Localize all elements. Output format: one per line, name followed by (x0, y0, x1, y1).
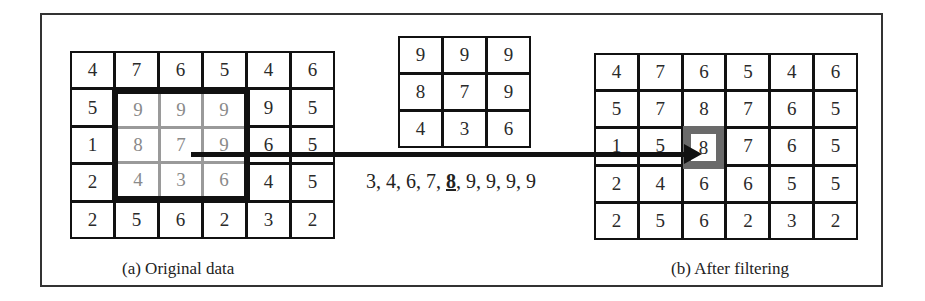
filtered-data-cell: 2 (727, 204, 768, 238)
filtered-data-cell: 6 (771, 92, 812, 126)
sorted-sequence: 3, 4, 6, 7, 8, 9, 9, 9, 9 (366, 170, 536, 193)
original-data-cell: 1 (72, 128, 113, 162)
filtered-data-cell: 5 (771, 167, 812, 201)
original-data-cell: 4 (248, 53, 289, 87)
original-data-cell: 9 (248, 90, 289, 124)
original-data-cell: 6 (248, 128, 289, 162)
sequence-after-median: , 9, 9, 9, 9 (456, 170, 536, 192)
window-cell: 4 (118, 164, 158, 196)
filtered-data-cell: 5 (727, 55, 768, 89)
kernel-cell: 6 (488, 112, 529, 146)
kernel-cell: 9 (444, 38, 485, 72)
original-data-cell: 6 (292, 53, 333, 87)
filtered-data-cell: 5 (640, 129, 681, 163)
kernel-cell: 9 (488, 75, 529, 109)
original-data-cell: 5 (292, 90, 333, 124)
window-cell: 3 (161, 164, 201, 196)
filtered-data-cell: 7 (727, 129, 768, 163)
filtered-data-cell: 5 (596, 92, 637, 126)
caption-original-data: (a) Original data (122, 259, 234, 279)
original-data-cell: 6 (160, 203, 201, 237)
original-data-cell: 5 (116, 203, 157, 237)
sequence-before-median: 3, 4, 6, 7, (366, 170, 446, 192)
original-data-cell: 5 (292, 165, 333, 199)
filtered-data-cell: 5 (815, 129, 856, 163)
filtered-data-cell: 3 (771, 204, 812, 238)
original-data-cell: 5 (292, 128, 333, 162)
original-data-cell: 7 (116, 53, 157, 87)
window-cell: 9 (118, 94, 158, 126)
filtered-data-cell: 5 (815, 167, 856, 201)
filtered-data-cell: 6 (684, 167, 725, 201)
original-data-cell: 3 (248, 203, 289, 237)
window-cell: 8 (118, 129, 158, 161)
original-data-cell: 4 (72, 53, 113, 87)
filtered-data-cell: 4 (771, 55, 812, 89)
filtered-data-cell: 2 (815, 204, 856, 238)
filtered-data-cell: 7 (727, 92, 768, 126)
window-cell: 6 (204, 164, 244, 196)
filtered-data-cell: 6 (684, 55, 725, 89)
filtered-data-cell: 7 (640, 55, 681, 89)
filtered-data-cell: 8 (684, 92, 725, 126)
filtered-data-cell: 5 (815, 92, 856, 126)
caption-after-filtering: (b) After filtering (671, 259, 789, 279)
sequence-median: 8 (446, 170, 456, 192)
original-data-cell: 2 (204, 203, 245, 237)
filtered-data-cell: 4 (596, 55, 637, 89)
kernel-cell: 8 (400, 75, 441, 109)
filtered-data-cell: 2 (596, 167, 637, 201)
filtered-data-cell: 6 (771, 129, 812, 163)
kernel-cell: 9 (488, 38, 529, 72)
kernel-grid: 999879436 (398, 36, 531, 148)
original-data-cell: 2 (292, 203, 333, 237)
filtered-data-cell: 5 (640, 204, 681, 238)
filtered-data-cell: 6 (815, 55, 856, 89)
filtered-data-grid: 476546578765158765246655256232 (594, 53, 858, 240)
kernel-cell: 3 (444, 112, 485, 146)
kernel-cell: 7 (444, 75, 485, 109)
arrow-head-icon (684, 144, 702, 164)
window-cell: 9 (161, 94, 201, 126)
filter-window-cells: 999879436 (118, 94, 244, 196)
filtered-data-cell: 4 (640, 167, 681, 201)
window-cell: 9 (204, 94, 244, 126)
original-data-cell: 6 (160, 53, 201, 87)
filtered-data-cell: 6 (727, 167, 768, 201)
original-data-cell: 4 (248, 165, 289, 199)
original-data-cell: 2 (72, 203, 113, 237)
original-data-cell: 5 (204, 53, 245, 87)
kernel-cell: 9 (400, 38, 441, 72)
original-data-cell: 5 (72, 90, 113, 124)
filtered-data-cell: 2 (596, 204, 637, 238)
kernel-cell: 4 (400, 112, 441, 146)
original-data-cell: 2 (72, 165, 113, 199)
filtered-data-cell: 7 (640, 92, 681, 126)
filtered-data-cell: 1 (596, 129, 637, 163)
filtered-data-cell: 6 (684, 204, 725, 238)
arrow-line (191, 152, 686, 157)
